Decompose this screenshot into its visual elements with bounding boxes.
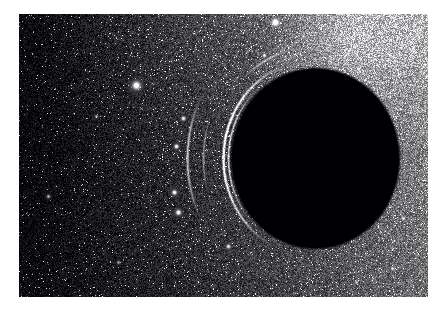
image-page xyxy=(0,0,442,318)
image-caption xyxy=(19,299,428,316)
black-hole-starfield-photograph xyxy=(19,14,428,297)
astronomical-image-plate xyxy=(19,14,428,297)
